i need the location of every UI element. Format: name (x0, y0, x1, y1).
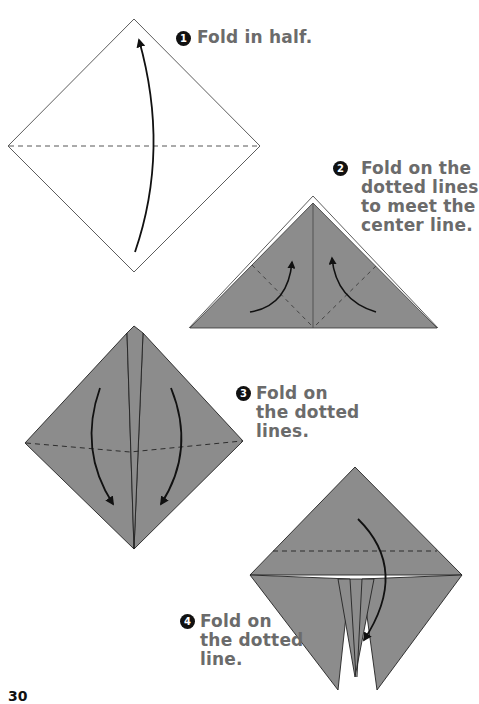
page-number: 30 (8, 688, 27, 704)
step-1-label: 1Fold in half. (176, 28, 312, 47)
step-instruction: Fold on the dotted lines to meet the cen… (333, 159, 479, 235)
step-1-diagram (8, 19, 260, 272)
step-4-label: 4Fold on the dotted line. (180, 612, 303, 669)
step-number-badge: 1 (176, 31, 191, 46)
step-instruction: Fold on the dotted lines. (236, 384, 359, 441)
step-2-label: 2Fold on the dotted lines to meet the ce… (333, 159, 479, 235)
flap-right (362, 575, 462, 690)
step-3-label: 3Fold on the dotted lines. (236, 384, 359, 441)
step-number-badge: 3 (236, 386, 251, 401)
paper-diamond-right (134, 333, 243, 549)
step-instruction: Fold on the dotted line. (180, 612, 303, 669)
step-number-badge: 4 (180, 614, 195, 629)
paper-top (250, 467, 462, 575)
paper-square (8, 19, 260, 272)
step-number-badge: 2 (333, 161, 348, 176)
paper-diamond (25, 333, 134, 549)
step-3-diagram (25, 326, 243, 549)
step-instruction: Fold in half. (197, 27, 312, 47)
